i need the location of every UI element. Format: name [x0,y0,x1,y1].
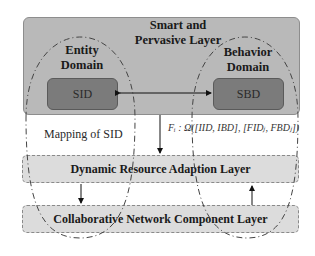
diagram-overlay [0,0,315,256]
entity-domain-boundary [26,37,135,238]
behavior-domain-boundary [192,37,298,238]
